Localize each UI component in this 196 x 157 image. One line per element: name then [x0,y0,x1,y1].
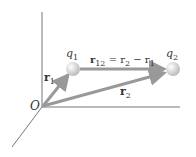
vector-r12-label: r12 = r2 − r1 [90,54,155,68]
charge-q2-label: q2 [166,47,178,62]
vector-r1-label: r1 [44,71,55,86]
diagram-canvas [0,0,196,157]
charge-q1-label: q1 [66,47,78,62]
charge-q2-sphere [166,62,180,76]
vector-r2-label: r2 [120,85,131,100]
vector-r2 [43,73,164,106]
origin-label: O [30,99,40,113]
charge-q1-sphere [66,62,80,76]
axes [12,12,180,147]
